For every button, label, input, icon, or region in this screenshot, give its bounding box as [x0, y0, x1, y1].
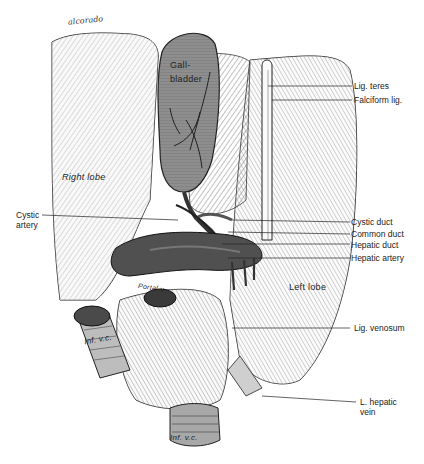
anatomy-figure: alcorado Gall- bladder Right lobe Left l… — [0, 0, 424, 464]
callout-cystic-artery: Cystic artery — [16, 210, 39, 230]
callout-l-hepatic-vein: L. hepatic vein — [360, 397, 397, 417]
callout-cystic-duct: Cystic duct — [351, 217, 393, 227]
callout-hepatic-duct: Hepatic duct — [351, 240, 398, 250]
label-inf-vc-lower: Inf. v.c. — [170, 433, 198, 442]
label-right-lobe: Right lobe — [62, 172, 106, 182]
label-gallbladder: Gall- bladder — [170, 58, 202, 86]
callout-falciform-lig: Falciform lig. — [354, 95, 402, 105]
callout-lig-teres: Lig. teres — [354, 81, 389, 91]
callout-lig-venosum: Lig. venosum — [354, 323, 405, 333]
callout-common-duct: Common duct — [351, 229, 404, 239]
callout-hepatic-artery: Hepatic artery — [351, 253, 404, 263]
label-left-lobe: Left lobe — [289, 282, 326, 292]
falciform-ligament — [262, 60, 272, 240]
